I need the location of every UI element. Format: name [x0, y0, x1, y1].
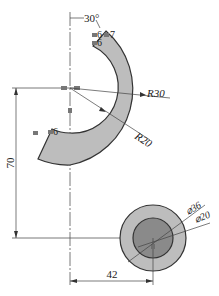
- constraint-icon[interactable]: [104, 33, 109, 37]
- arrow-up: [14, 88, 18, 95]
- linear-dimension-42[interactable]: 42: [107, 268, 118, 280]
- coincident-constraint-icon[interactable]: [61, 86, 67, 90]
- linear-dimension-70[interactable]: 70: [4, 157, 16, 169]
- arrow-left: [70, 279, 77, 283]
- angle-dimension-30[interactable]: 30°: [84, 12, 99, 24]
- arrow-right: [146, 279, 153, 283]
- radius-dimension-r30[interactable]: R30: [146, 87, 165, 99]
- r30-arrow: [140, 92, 146, 97]
- constraint-icon[interactable]: [33, 131, 38, 135]
- constraint-label: 7: [110, 29, 115, 40]
- arrow-down: [14, 231, 18, 238]
- coincident-constraint-icon[interactable]: [74, 86, 80, 90]
- fixed-constraint-icon[interactable]: [68, 108, 72, 113]
- constraint-label: 6: [97, 37, 102, 48]
- cad-sketch-canvas[interactable]: 30° 6 7 6 R30 R20 6 70 ⌀36 ⌀20 42: [0, 0, 219, 296]
- radius-dimension-r20[interactable]: R20: [132, 129, 155, 150]
- constraint-label: 6: [53, 126, 58, 137]
